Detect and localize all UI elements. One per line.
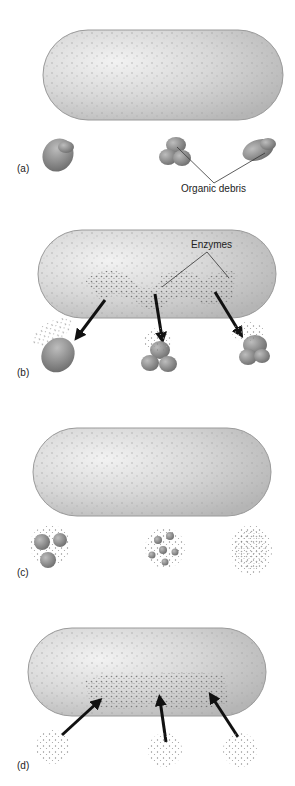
panel-b [28, 230, 276, 379]
fragmented-debris [145, 528, 185, 568]
absorbed-molecules [85, 672, 228, 709]
organic-debris-label: Organic debris [181, 183, 246, 194]
debris-particle [159, 137, 191, 166]
panel-d [28, 628, 266, 767]
panel-a [37, 30, 283, 183]
debris-particle [141, 328, 177, 372]
panel-c [30, 428, 272, 575]
cell-texture [43, 30, 283, 120]
panel-label-d: (d) [17, 760, 29, 771]
partially-digested-debris [30, 525, 70, 568]
molecule-cloud [223, 733, 257, 767]
debris-particle [240, 135, 277, 165]
enzymes-label: Enzymes [191, 239, 232, 250]
panel-label-a: (a) [17, 163, 29, 174]
debris-particle [37, 133, 80, 177]
panel-label-b: (b) [17, 367, 29, 378]
debris-particle [232, 322, 270, 365]
panel-label-c: (c) [17, 567, 29, 578]
cell-texture [33, 428, 271, 516]
molecule-cloud [148, 733, 182, 767]
extracellular-digestion-diagram [0, 0, 295, 786]
debris-particle [28, 312, 81, 379]
small-molecules [230, 525, 272, 575]
molecule-cloud [36, 730, 70, 764]
